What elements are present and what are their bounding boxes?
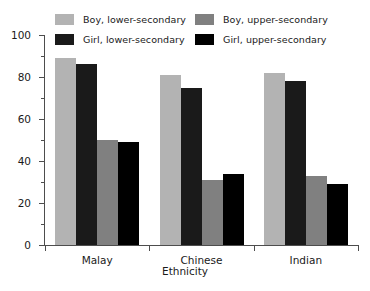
y-tick-minor bbox=[41, 140, 45, 141]
y-tick-label: 0 bbox=[24, 240, 31, 251]
x-axis-line bbox=[44, 245, 358, 246]
bar bbox=[327, 184, 348, 245]
x-tick bbox=[358, 245, 359, 251]
legend-label-boy-lower-secondary: Boy, lower-secondary bbox=[83, 14, 186, 25]
y-tick-major: 80 bbox=[39, 77, 45, 78]
legend-item-boy-upper-secondary: Boy, upper-secondary bbox=[195, 9, 335, 29]
y-tick-minor bbox=[41, 98, 45, 99]
y-tick-major: 40 bbox=[39, 161, 45, 162]
bar bbox=[202, 180, 223, 245]
bar-group-chinese bbox=[160, 35, 244, 245]
y-tick-label: 60 bbox=[18, 114, 31, 125]
y-tick-label: 100 bbox=[11, 30, 31, 41]
bar bbox=[160, 75, 181, 245]
x-tick bbox=[254, 245, 255, 251]
legend-swatch-icon-boy-upper-secondary bbox=[195, 14, 214, 25]
y-tick-minor bbox=[41, 56, 45, 57]
legend-swatch-icon-boy-lower-secondary bbox=[55, 14, 74, 25]
bar bbox=[55, 58, 76, 245]
y-tick-minor bbox=[41, 182, 45, 183]
y-tick-label: 40 bbox=[18, 156, 31, 167]
bar bbox=[97, 140, 118, 245]
bar-chart: Boy, lower-secondary Boy, upper-secondar… bbox=[0, 0, 370, 291]
plot-area: 020406080100 MalayChineseIndian bbox=[45, 35, 358, 245]
bar bbox=[223, 174, 244, 245]
y-tick-major: 60 bbox=[39, 119, 45, 120]
bar-group-malay bbox=[55, 35, 139, 245]
y-tick-minor bbox=[41, 224, 45, 225]
legend-label-boy-upper-secondary: Boy, upper-secondary bbox=[223, 14, 328, 25]
x-tick bbox=[45, 245, 46, 251]
y-tick-major: 20 bbox=[39, 203, 45, 204]
bar bbox=[76, 64, 97, 245]
bar bbox=[181, 88, 202, 246]
x-tick bbox=[149, 245, 150, 251]
y-tick-label: 80 bbox=[18, 72, 31, 83]
y-tick-major: 100 bbox=[39, 35, 45, 36]
bar bbox=[306, 176, 327, 245]
x-axis-title: Ethnicity bbox=[0, 265, 370, 277]
legend-item-boy-lower-secondary: Boy, lower-secondary bbox=[55, 9, 195, 29]
y-tick-label: 20 bbox=[18, 198, 31, 209]
bar bbox=[118, 142, 139, 245]
bar-group-indian bbox=[264, 35, 348, 245]
bar bbox=[285, 81, 306, 245]
bar bbox=[264, 73, 285, 245]
